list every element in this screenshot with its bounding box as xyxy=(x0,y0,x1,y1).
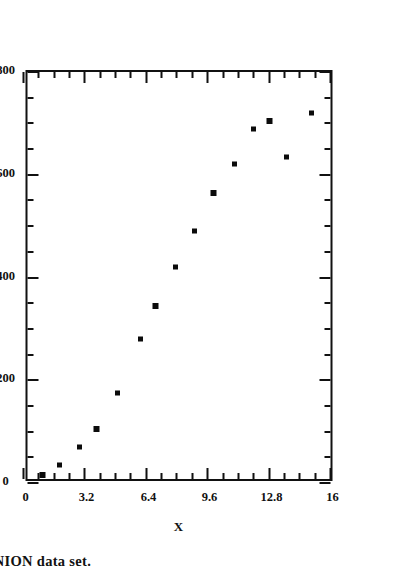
axis-tick-minor xyxy=(324,431,330,433)
axis-tick-minor xyxy=(27,405,33,407)
axis-tick-minor xyxy=(237,72,239,78)
axis-tick-minor xyxy=(53,72,55,78)
data-point xyxy=(251,126,256,131)
axis-tick-minor xyxy=(27,354,33,356)
data-point xyxy=(266,118,272,124)
data-point xyxy=(93,426,99,432)
x-tick-label: 3.2 xyxy=(79,490,95,505)
data-point xyxy=(138,337,143,342)
x-tick-label: 0 xyxy=(22,490,28,505)
y-tick-label: 0 xyxy=(2,474,8,489)
axis-tick-major xyxy=(22,468,24,479)
axis-tick-major xyxy=(27,71,38,73)
data-point xyxy=(39,472,45,478)
axis-tick-minor xyxy=(27,431,33,433)
axis-tick-minor xyxy=(314,473,316,479)
axis-tick-minor xyxy=(53,473,55,479)
axis-tick-major xyxy=(83,72,85,83)
axis-tick-minor xyxy=(298,473,300,479)
axis-tick-major xyxy=(319,277,330,279)
y-tick-label: 800 xyxy=(0,63,14,78)
axis-tick-minor xyxy=(176,473,178,479)
axis-tick-minor xyxy=(314,72,316,78)
data-point xyxy=(115,391,120,396)
data-point xyxy=(210,190,216,196)
axis-tick-minor xyxy=(298,72,300,78)
axis-tick-major xyxy=(329,72,331,83)
axis-tick-major xyxy=(329,468,331,479)
axis-tick-major xyxy=(27,277,38,279)
data-point xyxy=(283,154,288,159)
axis-tick-minor xyxy=(160,473,162,479)
data-point xyxy=(172,265,177,270)
plot-area xyxy=(25,70,332,481)
axis-tick-minor xyxy=(160,72,162,78)
axis-tick-major xyxy=(27,174,38,176)
x-tick-label: 9.6 xyxy=(201,490,217,505)
axis-tick-minor xyxy=(283,72,285,78)
axis-tick-major xyxy=(145,468,147,479)
axis-tick-minor xyxy=(114,473,116,479)
axis-tick-minor xyxy=(324,302,330,304)
axis-tick-minor xyxy=(222,473,224,479)
axis-tick-minor xyxy=(129,72,131,78)
axis-tick-major xyxy=(319,379,330,381)
axis-tick-minor xyxy=(324,354,330,356)
axis-tick-minor xyxy=(129,473,131,479)
y-tick-label: 200 xyxy=(0,371,14,386)
axis-tick-minor xyxy=(324,97,330,99)
axis-tick-minor xyxy=(324,251,330,253)
axis-tick-minor xyxy=(324,225,330,227)
axis-tick-major xyxy=(268,468,270,479)
axis-tick-minor xyxy=(191,473,193,479)
axis-tick-minor xyxy=(27,456,33,458)
axis-tick-major xyxy=(83,468,85,479)
axis-tick-major xyxy=(206,72,208,83)
x-tick-label: 6.4 xyxy=(140,490,156,505)
y-tick-label: 600 xyxy=(0,165,14,180)
data-point xyxy=(57,463,62,468)
axis-tick-minor xyxy=(99,72,101,78)
axis-tick-major xyxy=(145,72,147,83)
axis-tick-minor xyxy=(252,72,254,78)
data-point xyxy=(76,445,81,450)
x-tick-label: 12.8 xyxy=(260,490,282,505)
data-point xyxy=(308,111,313,116)
axis-tick-minor xyxy=(27,328,33,330)
axis-tick-minor xyxy=(222,72,224,78)
data-point xyxy=(152,303,158,309)
axis-tick-minor xyxy=(324,148,330,150)
axis-tick-minor xyxy=(283,473,285,479)
axis-tick-major xyxy=(22,72,24,83)
axis-tick-minor xyxy=(252,473,254,479)
axis-tick-major xyxy=(27,482,38,484)
axis-tick-major xyxy=(319,482,330,484)
x-axis-title: X xyxy=(174,519,183,535)
axis-tick-major xyxy=(268,72,270,83)
axis-tick-minor xyxy=(27,97,33,99)
figure-caption: FIGURE 2 The ONION data set. xyxy=(0,553,91,570)
axis-tick-minor xyxy=(324,199,330,201)
data-point xyxy=(232,162,237,167)
axis-tick-major xyxy=(319,71,330,73)
axis-tick-minor xyxy=(27,225,33,227)
axis-tick-minor xyxy=(68,473,70,479)
axis-tick-minor xyxy=(324,122,330,124)
axis-tick-major xyxy=(27,379,38,381)
axis-tick-minor xyxy=(237,473,239,479)
axis-tick-minor xyxy=(27,148,33,150)
axis-tick-minor xyxy=(99,473,101,479)
axis-tick-minor xyxy=(324,405,330,407)
axis-tick-minor xyxy=(114,72,116,78)
axis-tick-major xyxy=(206,468,208,479)
axis-tick-minor xyxy=(27,251,33,253)
axis-tick-major xyxy=(319,174,330,176)
axis-tick-minor xyxy=(324,456,330,458)
axis-tick-minor xyxy=(68,72,70,78)
data-point xyxy=(191,229,196,234)
axis-tick-minor xyxy=(176,72,178,78)
x-tick-label: 16 xyxy=(326,490,339,505)
axis-tick-minor xyxy=(27,199,33,201)
axis-tick-minor xyxy=(27,122,33,124)
